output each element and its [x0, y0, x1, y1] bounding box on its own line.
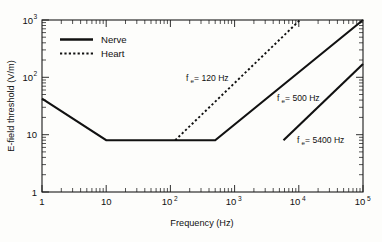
x-tick-exp-3: 3: [238, 195, 242, 202]
x-tick-label-5: 10: [355, 196, 366, 207]
annotation-fe-120-text: = 120 Hz: [194, 73, 229, 83]
y-tick-label-1: 10: [26, 129, 37, 140]
x-tick-exp-2: 2: [174, 195, 178, 202]
annotation-fe-5400: f e = 5400 Hz: [297, 135, 344, 146]
annotation-fe-5400-text: = 5400 Hz: [305, 135, 344, 145]
chart-svg: 1 10 10 2 10 3 10 4 10 5 1 10 10 2 10 3 …: [0, 0, 382, 242]
annotation-fe-500-text: = 500 Hz: [285, 93, 320, 103]
x-tick-label-2: 10: [162, 196, 173, 207]
x-tick-label-1: 10: [101, 196, 112, 207]
y-tick-label-0: 1: [32, 187, 37, 198]
y-tick-label-3: 10: [22, 15, 33, 26]
x-tick-exp-4: 4: [302, 195, 306, 202]
legend-label-nerve: Nerve: [101, 34, 127, 45]
x-axis-title: Frequency (Hz): [170, 218, 233, 228]
x-tick-label-4: 10: [290, 196, 301, 207]
x-tick-exp-5: 5: [367, 195, 371, 202]
x-tick-label-3: 10: [226, 196, 237, 207]
figure-container: 1 10 10 2 10 3 10 4 10 5 1 10 10 2 10 3 …: [0, 0, 382, 242]
x-tick-label-0: 1: [39, 196, 44, 207]
y-tick-label-2: 10: [22, 72, 33, 83]
y-tick-exp-2: 2: [34, 70, 38, 77]
y-tick-exp-3: 3: [34, 13, 38, 20]
y-axis-title: E-field threshold (V/m): [6, 60, 16, 151]
figure-background: [0, 0, 382, 242]
legend-label-heart: Heart: [101, 48, 125, 59]
